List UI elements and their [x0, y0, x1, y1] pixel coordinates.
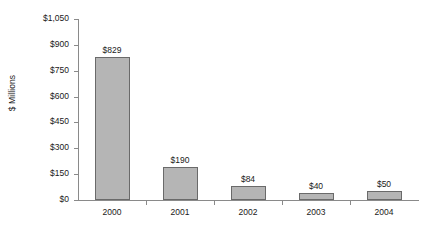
x-axis-category-label: 2000 [82, 207, 142, 217]
y-axis-tick-label: $1,050 [43, 13, 69, 23]
y-axis-tick-mark [74, 45, 79, 46]
bar-value-label: $829 [82, 45, 142, 55]
y-axis-tick-label: $300 [50, 142, 69, 152]
y-axis-tick-mark [74, 97, 79, 98]
bar[interactable] [95, 57, 130, 200]
x-axis-line [78, 200, 419, 201]
y-axis-tick-label: $900 [50, 39, 69, 49]
bar[interactable] [163, 167, 198, 200]
y-axis-tick-label: $0 [60, 194, 69, 204]
y-axis-tick-label: $150 [50, 168, 69, 178]
x-axis-tick-mark [350, 200, 351, 205]
bar[interactable] [299, 193, 334, 200]
x-axis-category-label: 2001 [150, 207, 210, 217]
bar[interactable] [231, 186, 266, 200]
bar-value-label: $50 [354, 179, 414, 189]
x-axis-tick-mark [282, 200, 283, 205]
x-axis-category-label: 2004 [354, 207, 414, 217]
y-axis-tick-label: $600 [50, 91, 69, 101]
bar-value-label: $190 [150, 155, 210, 165]
y-axis-tick-mark [74, 122, 79, 123]
y-axis-tick-label: $450 [50, 116, 69, 126]
bar-value-label: $84 [218, 174, 278, 184]
x-axis-tick-mark [146, 200, 147, 205]
bar-chart: $ Millions $0$150$300$450$600$750$900$1,… [0, 0, 440, 226]
y-axis-tick-label: $750 [50, 65, 69, 75]
y-axis-tick-mark [74, 174, 79, 175]
x-axis-category-label: 2002 [218, 207, 278, 217]
y-axis-title: $ Millions [7, 61, 17, 125]
y-axis-tick-mark [74, 148, 79, 149]
x-axis-category-label: 2003 [286, 207, 346, 217]
bar[interactable] [367, 191, 402, 200]
y-axis-tick-mark [74, 200, 79, 201]
bar-value-label: $40 [286, 181, 346, 191]
x-axis-tick-mark [214, 200, 215, 205]
y-axis-tick-mark [74, 19, 79, 20]
y-axis-tick-mark [74, 71, 79, 72]
